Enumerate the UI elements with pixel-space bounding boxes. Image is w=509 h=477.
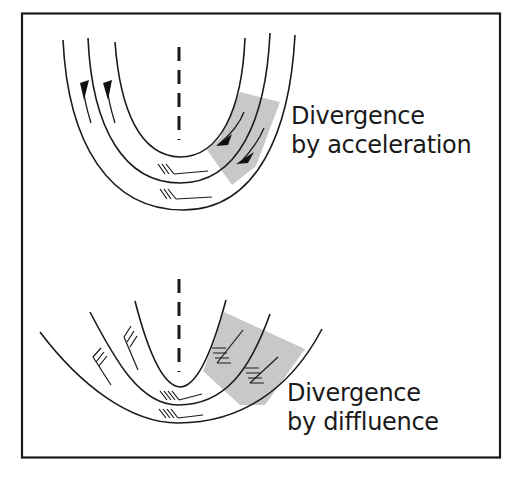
label-diffluence-line2: by diffluence [287,408,439,437]
label-acceleration-line2: by acceleration [291,131,471,160]
label-acceleration-line1: Divergence [291,102,471,131]
label-acceleration: Divergence by acceleration [291,102,471,160]
label-diffluence-line1: Divergence [287,379,439,408]
label-diffluence: Divergence by diffluence [287,379,439,437]
